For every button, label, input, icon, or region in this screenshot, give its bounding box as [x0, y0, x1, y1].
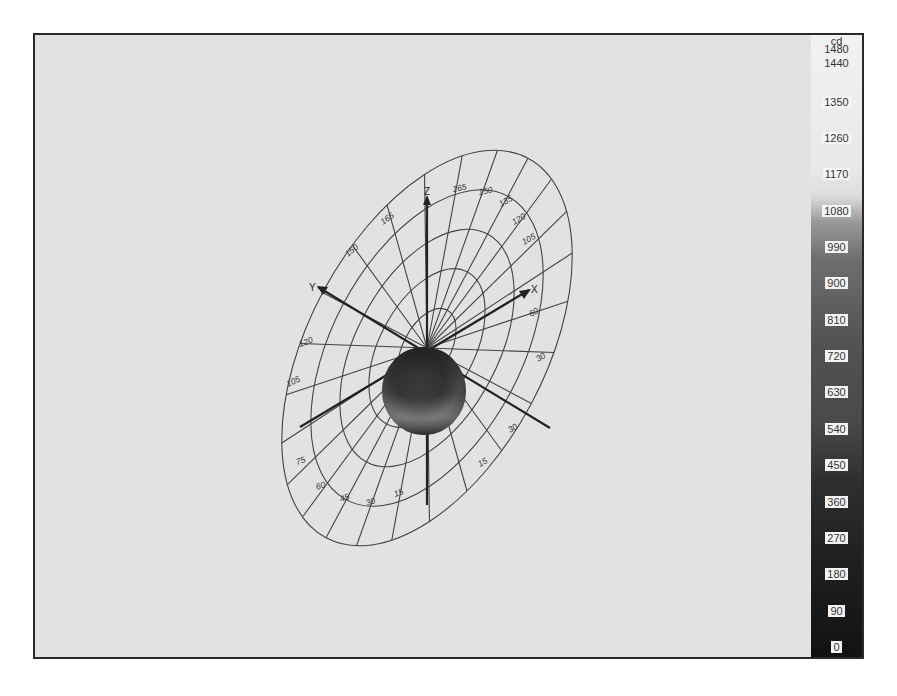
colorbar-tick-label: 360	[811, 496, 862, 508]
colorbar-tick-value: 90	[828, 605, 844, 617]
angle-label: 135	[497, 193, 515, 209]
angle-label: 45	[338, 491, 351, 504]
colorbar-tick-label: 0	[811, 641, 862, 653]
colorbar-tick-value: 720	[825, 350, 847, 362]
polar-spoke	[427, 150, 497, 348]
angle-label: 15	[476, 455, 489, 469]
colorbar-tick-value: 0	[831, 641, 841, 653]
colorbar-tick-value: 1440	[824, 57, 848, 69]
colorbar-tick-value: 360	[825, 496, 847, 508]
plot-area[interactable]: ZXY 165150120105165150135120105603030157…	[35, 35, 811, 657]
colorbar-tick-label: 450	[811, 459, 862, 471]
polar-spoke	[427, 348, 554, 352]
angle-label: 105	[520, 231, 538, 247]
colorbar-tick-label: 270	[811, 532, 862, 544]
y-axis-arrow	[317, 286, 328, 295]
colorbar-tick-label: 90	[811, 605, 862, 617]
polar-spoke	[427, 253, 572, 348]
angle-label: 120	[510, 211, 528, 227]
colorbar-tick-label: 990	[811, 241, 862, 253]
intensity-sphere	[382, 347, 466, 435]
colorbar-tick-value: 1480	[824, 43, 848, 55]
colorbar-tick-value: 180	[825, 568, 847, 580]
colorbar-tick-value: 1170	[823, 168, 851, 180]
angle-label: 120	[297, 335, 314, 349]
polar-spoke	[427, 179, 552, 348]
colorbar-tick-label: 1350	[811, 96, 862, 108]
colorbar-tick-label: 900	[811, 277, 862, 289]
colorbar-tick-value: 1350	[822, 96, 850, 108]
colorbar-tick-label: 1480	[811, 43, 862, 55]
angle-label: 165	[378, 210, 396, 226]
colorbar-tick-value: 630	[825, 386, 847, 398]
y-axis-label: Y	[309, 282, 316, 293]
angle-label: 30	[506, 421, 519, 435]
x-axis-label: X	[531, 284, 538, 295]
colorbar-tick-value: 540	[825, 423, 847, 435]
angle-label: 15	[392, 486, 405, 499]
sphere-shade	[382, 347, 466, 435]
angle-label: 60	[314, 479, 327, 492]
colorbar: cd14801440135012601170108099090081072063…	[811, 35, 862, 657]
colorbar-tick-label: 810	[811, 314, 862, 326]
polar-spoke	[352, 245, 427, 348]
polar-spoke	[300, 344, 427, 348]
colorbar-tick-value: 900	[825, 277, 847, 289]
colorbar-tick-value: 1080	[822, 205, 850, 217]
polar-spoke	[387, 205, 427, 348]
colorbar-tick-value: 990	[825, 241, 847, 253]
angle-label: 105	[285, 374, 302, 389]
z-axis-label: Z	[424, 186, 430, 197]
colorbar-tick-value: 450	[825, 459, 847, 471]
colorbar-tick-value: 810	[825, 314, 847, 326]
colorbar-tick-label: 720	[811, 350, 862, 362]
colorbar-tick-value: 270	[825, 532, 847, 544]
colorbar-tick-label: 1170	[811, 168, 862, 180]
colorbar-tick-label: 1260	[811, 132, 862, 144]
angle-label: 150	[343, 242, 361, 259]
angle-label: 165	[452, 182, 468, 194]
colorbar-tick-label: 1440	[811, 57, 862, 69]
colorbar-tick-label: 1080	[811, 205, 862, 217]
angle-label: 75	[294, 454, 307, 467]
colorbar-tick-label: 180	[811, 568, 862, 580]
colorbar-tick-label: 540	[811, 423, 862, 435]
angle-label: 150	[478, 185, 494, 197]
chart-frame: ZXY 165150120105165150135120105603030157…	[33, 33, 864, 659]
colorbar-tick-value: 1260	[822, 132, 850, 144]
colorbar-tick-label: 630	[811, 386, 862, 398]
